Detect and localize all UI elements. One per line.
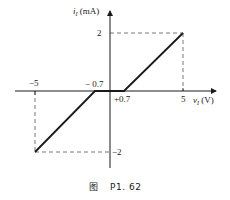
transfer-curve [35, 33, 183, 152]
tick-label-knee-pos: +0.7 [114, 95, 130, 104]
figure-caption: 图P1. 62 [0, 180, 230, 193]
tick-label-knee-neg: − 0.7 [85, 80, 104, 89]
tick-label-y-pos: 2 [97, 29, 102, 38]
x-unit: (V) [201, 95, 214, 105]
caption-label: P1. 62 [110, 182, 141, 192]
y-unit: (mA) [80, 6, 100, 16]
x-subscript: I [197, 100, 199, 106]
caption-prefix: 图 [89, 182, 99, 192]
tick-label-x-neg: −5 [29, 79, 39, 88]
tick-label-x-pos: 5 [181, 95, 186, 104]
y-subscript: I [76, 11, 78, 17]
y-axis-label: iI (mA) [73, 7, 99, 17]
dashed-guides [35, 33, 183, 152]
tick-label-y-neg: −2 [112, 148, 122, 157]
x-axis-label: vI (V) [193, 96, 214, 106]
